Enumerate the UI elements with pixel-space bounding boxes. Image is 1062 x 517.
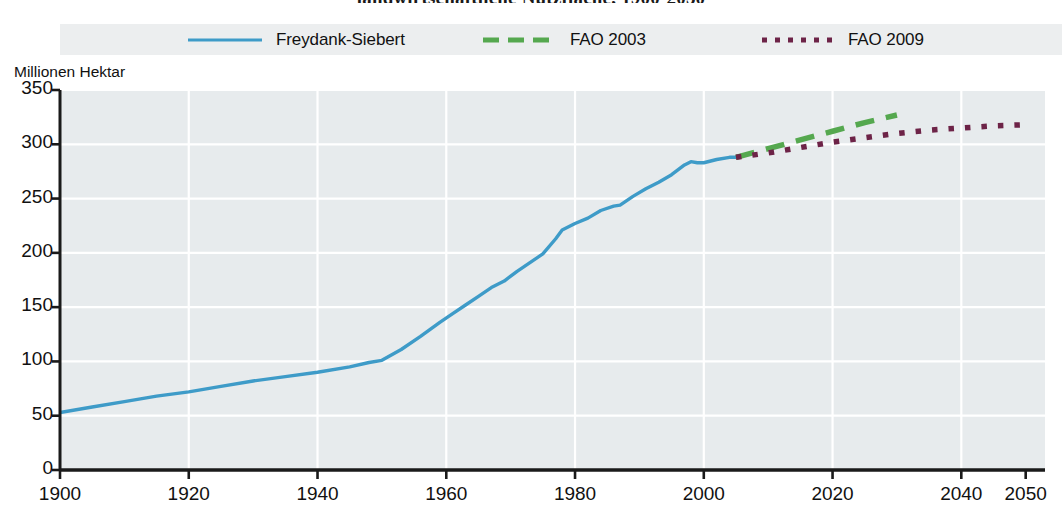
x-axis-tick-label: 2050 bbox=[986, 483, 1062, 505]
plot-background bbox=[60, 90, 1045, 470]
x-axis-tick-label: 2000 bbox=[664, 483, 744, 505]
y-axis-tick-label: 150 bbox=[0, 294, 53, 316]
y-axis-tick-label: 0 bbox=[0, 457, 53, 479]
chart-container: landwirtschaftliche Nutzfläche, 1900-205… bbox=[0, 0, 1062, 517]
y-axis-tick-label: 100 bbox=[0, 348, 53, 370]
plot-area: 050100150200250300350 190019201940196019… bbox=[0, 0, 1062, 517]
x-axis-tick-label: 1980 bbox=[535, 483, 615, 505]
y-axis-tick-label: 200 bbox=[0, 240, 53, 262]
x-axis-tick-label: 1920 bbox=[149, 483, 229, 505]
y-axis-tick-label: 250 bbox=[0, 186, 53, 208]
plot-svg bbox=[0, 0, 1062, 517]
y-axis-tick-label: 300 bbox=[0, 131, 53, 153]
x-axis-tick-label: 1940 bbox=[278, 483, 358, 505]
x-axis-tick-label: 1960 bbox=[406, 483, 486, 505]
x-axis-tick-label: 2020 bbox=[793, 483, 873, 505]
y-axis-tick-label: 350 bbox=[0, 77, 53, 99]
y-axis-tick-label: 50 bbox=[0, 403, 53, 425]
x-axis-tick-label: 1900 bbox=[20, 483, 100, 505]
